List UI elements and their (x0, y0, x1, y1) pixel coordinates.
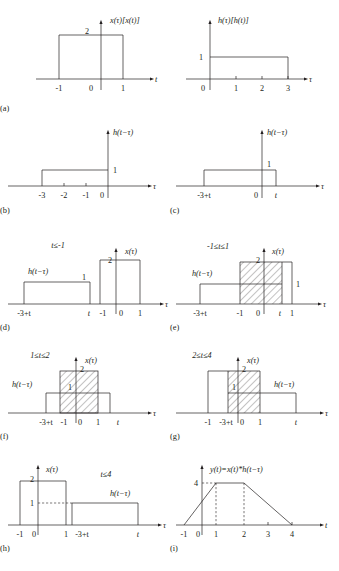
xtick-1: 1 (121, 84, 125, 93)
xtick-neg3plust: -3+t (75, 530, 89, 539)
xtick-t: t (295, 418, 298, 427)
ytick-1: 1 (296, 280, 300, 289)
condition-label: 2≤t≤4 (192, 351, 211, 360)
axis-label-y: x(τ) (45, 465, 58, 474)
axis-label-x: τ (153, 182, 157, 191)
axis-label-y: h(τ)[h(t)] (218, 16, 249, 25)
condition-label: -1≤t≤1 (207, 242, 229, 251)
xtick-0: 0 (100, 191, 104, 200)
xtick-neg3plust: -3+t (39, 418, 53, 427)
ytick-2: 2 (80, 365, 84, 374)
xtick-t: t (117, 418, 120, 427)
xtick-1: 1 (214, 530, 218, 539)
axis-label-y: h(t−τ) (113, 128, 134, 137)
pulse-outline (42, 170, 108, 186)
axis-label-x: t (325, 521, 328, 530)
condition-label: t≤4 (101, 470, 112, 479)
convolution-result-chart: y(t)=x(t)*h(t−τ) t 4 -1 0 1 2 3 4 (170, 455, 339, 543)
xtick-neg3plust: -3+t (219, 418, 233, 427)
partial-overlap-left-chart: -1≤t≤1 x(τ) h(t−τ) τ 2 1 -3+t -1 0 t 1 (170, 236, 339, 322)
xtick-neg1: -1 (205, 418, 212, 427)
ytick-2: 2 (256, 256, 260, 265)
axis-label-y: x(τ)[x(t)] (109, 16, 140, 25)
panel-b: h(t−τ) τ 1 -3 -2 -1 0 (b) (0, 126, 170, 218)
condition-label: t≤-1 (51, 241, 65, 250)
axis-label-y: h(t−τ) (267, 128, 288, 137)
h-label: h(t−τ) (12, 380, 33, 389)
xtick-1: 1 (258, 418, 262, 427)
panel-caption-g: (g) (170, 432, 339, 441)
xtick-t: t (279, 309, 282, 318)
axis-label-x: τ (163, 521, 167, 530)
xtick-1: 1 (64, 530, 68, 539)
xtick-1: 1 (234, 84, 238, 93)
h-label: h(t−τ) (192, 269, 213, 278)
pulse-outline (59, 35, 123, 79)
axis-label-y: x(τ) (271, 247, 284, 256)
axis-label-x: τ (325, 409, 329, 418)
panel-c: h(t−τ) τ 1 -3+t 0 t (c) (170, 126, 339, 218)
xtick-0: 0 (32, 530, 36, 539)
x-tau-chart: x(τ)[x(t)] t 2 -1 0 1 (18, 12, 188, 104)
xtick-0: 0 (256, 309, 260, 318)
pulse-outline (204, 170, 276, 186)
xtick-0: 0 (196, 530, 200, 539)
panel-g: 2≤t≤4 x(τ) h(t−τ) τ 2 1 -1 -3+t 0 1 t (g… (170, 345, 339, 445)
h-shifted-chart: h(t−τ) τ 1 -3+t 0 t (170, 126, 339, 204)
xtick-3: 3 (266, 530, 270, 539)
xtick-4: 4 (290, 530, 294, 539)
ytick-1: 1 (267, 160, 271, 169)
ytick-1: 1 (68, 383, 72, 392)
partial-overlap-right-chart: 2≤t≤4 x(τ) h(t−τ) τ 2 1 -1 -3+t 0 1 t (170, 345, 339, 431)
ytick-2: 2 (85, 27, 89, 36)
xtick-neg1: -1 (237, 309, 244, 318)
condition-label: 1≤t≤2 (30, 351, 49, 360)
panel-caption-a: (a) (0, 104, 339, 113)
xtick-2: 2 (242, 530, 246, 539)
axis-label-y: x(τ) (124, 247, 137, 256)
axis-label-x: τ (321, 182, 325, 191)
xtick-neg2: -2 (61, 191, 68, 200)
full-overlap-chart: 1≤t≤2 x(τ) h(t−τ) τ 2 1 -3+t -1 0 1 t (0, 345, 175, 431)
h-pulse-outline (72, 503, 138, 525)
panel-f: 1≤t≤2 x(τ) h(t−τ) τ 2 1 -3+t -1 0 1 t (f… (0, 345, 175, 445)
xtick-1: 1 (138, 309, 142, 318)
pulse-outline (210, 57, 288, 79)
xtick-0: 0 (240, 418, 244, 427)
xtick-0: 0 (201, 84, 205, 93)
panel-caption-h: (h) (0, 544, 175, 553)
ytick-2: 2 (108, 256, 112, 265)
xtick-neg1: -1 (181, 530, 188, 539)
xtick-0: 0 (119, 309, 123, 318)
ytick-1: 1 (232, 383, 236, 392)
axis-label-x: τ (309, 75, 313, 84)
xtick-t: t (137, 530, 140, 539)
xtick-neg3plust: -3+t (197, 191, 211, 200)
h-label: h(t−τ) (28, 267, 49, 276)
axis-label-x: τ (165, 300, 169, 309)
xtick-neg1: -1 (17, 530, 24, 539)
panel-h: t≤4 x(τ) h(t−τ) τ 2 1 -1 0 1 -3+t t (h) (0, 455, 175, 560)
panel-caption-b: (b) (0, 206, 170, 215)
xtick-1: 1 (290, 309, 294, 318)
axis-label-y: x(τ) (84, 356, 97, 365)
xtick-2: 2 (260, 84, 264, 93)
ytick-1: 1 (30, 499, 34, 508)
xtick-neg3: -3 (39, 191, 46, 200)
xtick-neg1: -1 (100, 309, 107, 318)
xtick-t: t (275, 191, 278, 200)
xtick-neg1: -1 (83, 191, 90, 200)
h-pulse-outline (24, 282, 90, 304)
xtick-1: 1 (96, 418, 100, 427)
h-tau-chart: h(τ)[h(t)] τ 1 0 1 2 3 (178, 12, 339, 104)
axis-label-y: x(τ) (246, 356, 259, 365)
xtick-0: 0 (254, 191, 258, 200)
ytick-2: 2 (30, 475, 34, 484)
axis-label-x: τ (153, 409, 157, 418)
overlap-hatch (228, 371, 260, 413)
xtick-3: 3 (286, 84, 290, 93)
panel-d: t≤-1 x(τ) h(t−τ) τ 2 1 -3+t t -1 0 1 (d) (0, 236, 175, 336)
h-label: h(t−τ) (110, 489, 131, 498)
panel-caption-e: (e) (170, 323, 339, 332)
xtick-0: 0 (89, 84, 93, 93)
